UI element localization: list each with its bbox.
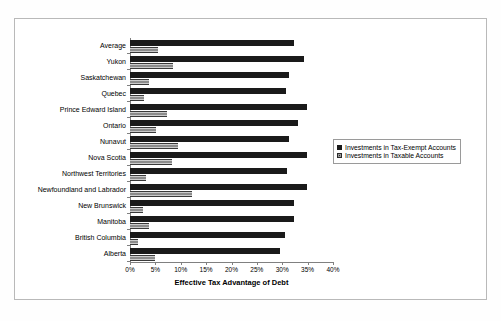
x-axis-tick-label: 5% xyxy=(151,266,160,273)
category-label: Northwest Territories xyxy=(62,170,126,178)
bar-tax-exempt xyxy=(130,184,307,190)
bar-group-row xyxy=(130,150,333,166)
bar-tax-exempt xyxy=(130,136,289,142)
bar-tax-exempt xyxy=(130,40,294,46)
bar-tax-exempt xyxy=(130,120,298,126)
category-label: Nova Scotia xyxy=(88,154,126,162)
bar-taxable xyxy=(130,111,167,117)
x-axis-tick xyxy=(232,262,233,265)
category-label: Ontario xyxy=(103,122,126,130)
bar-taxable xyxy=(130,175,146,181)
x-axis-tick xyxy=(130,262,131,265)
bar-group-row xyxy=(130,198,333,214)
x-axis-tick-label: 10% xyxy=(174,266,187,273)
bar-tax-exempt xyxy=(130,232,285,238)
x-axis-tick-label: 25% xyxy=(250,266,263,273)
bar-group-row xyxy=(130,38,333,54)
x-axis-tick-label: 0% xyxy=(125,266,134,273)
legend-item: Investments in Taxable Accounts xyxy=(337,152,456,159)
x-axis-tick xyxy=(155,262,156,265)
chart-legend: Investments in Tax-Exempt AccountsInvest… xyxy=(333,139,461,164)
bar-tax-exempt xyxy=(130,56,304,62)
bar-group-row xyxy=(130,102,333,118)
category-label: Alberta xyxy=(104,250,126,258)
category-label: New Brunswick xyxy=(78,202,126,210)
bar-tax-exempt xyxy=(130,248,280,254)
category-label: Manitoba xyxy=(97,218,126,226)
bar-group-row xyxy=(130,86,333,102)
x-axis-tick-label: 40% xyxy=(326,266,339,273)
legend-swatch-tax-exempt-icon xyxy=(337,145,342,150)
x-axis-tick xyxy=(282,262,283,265)
chart-page: AverageYukonSaskatchewanQuebecPrince Edw… xyxy=(0,0,501,321)
bar-taxable xyxy=(130,223,149,229)
x-axis-tick xyxy=(206,262,207,265)
bar-tax-exempt xyxy=(130,168,287,174)
bar-tax-exempt xyxy=(130,152,307,158)
bar-taxable xyxy=(130,127,156,133)
category-label: Quebec xyxy=(101,90,126,98)
category-label: Prince Edward Island xyxy=(60,106,126,114)
bar-tax-exempt xyxy=(130,104,307,110)
bar-taxable xyxy=(130,239,138,245)
bar-group-row xyxy=(130,182,333,198)
bar-tax-exempt xyxy=(130,72,289,78)
bar-taxable xyxy=(130,159,172,165)
legend-swatch-taxable-icon xyxy=(337,153,342,158)
x-axis-tick-label: 35% xyxy=(301,266,314,273)
bar-group-row xyxy=(130,166,333,182)
bar-tax-exempt xyxy=(130,88,286,94)
category-axis-labels: AverageYukonSaskatchewanQuebecPrince Edw… xyxy=(10,38,126,262)
bar-taxable xyxy=(130,207,143,213)
bar-taxable xyxy=(130,143,178,149)
bar-tax-exempt xyxy=(130,216,294,222)
category-label: British Columbia xyxy=(75,234,126,242)
bar-group-row xyxy=(130,70,333,86)
category-label: Nunavut xyxy=(100,138,126,146)
legend-label: Investments in Taxable Accounts xyxy=(345,152,444,159)
legend-label: Investments in Tax-Exempt Accounts xyxy=(345,144,456,151)
plot-area: 0%5%10%15%20%25%30%35%40% xyxy=(130,38,333,262)
bar-taxable xyxy=(130,255,155,261)
x-axis-tick xyxy=(257,262,258,265)
x-axis-title: Effective Tax Advantage of Debt xyxy=(130,278,333,287)
bar-group-row xyxy=(130,54,333,70)
x-axis-tick xyxy=(333,262,334,265)
bar-taxable xyxy=(130,191,192,197)
x-axis-tick-label: 20% xyxy=(225,266,238,273)
x-axis-tick-label: 30% xyxy=(276,266,289,273)
bar-group-row xyxy=(130,230,333,246)
category-label: Average xyxy=(100,42,126,50)
x-axis-tick-label: 15% xyxy=(200,266,213,273)
category-label: Yukon xyxy=(107,58,126,66)
category-label: Saskatchewan xyxy=(80,74,126,82)
x-axis-tick xyxy=(181,262,182,265)
bar-group-row xyxy=(130,118,333,134)
category-axis-tick xyxy=(127,261,130,262)
legend-item: Investments in Tax-Exempt Accounts xyxy=(337,144,456,151)
bar-tax-exempt xyxy=(130,200,294,206)
bar-taxable xyxy=(130,47,158,53)
x-axis-tick xyxy=(308,262,309,265)
bar-group-row xyxy=(130,246,333,262)
bar-taxable xyxy=(130,63,173,69)
bar-group-row xyxy=(130,214,333,230)
category-label: Newfoundland and Labrador xyxy=(38,186,126,194)
bar-group-row xyxy=(130,134,333,150)
bar-taxable xyxy=(130,95,144,101)
bar-taxable xyxy=(130,79,149,85)
